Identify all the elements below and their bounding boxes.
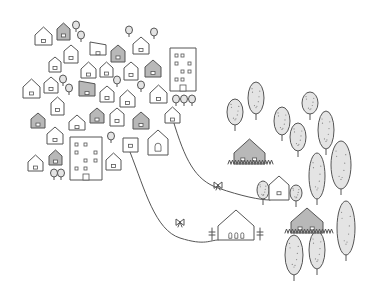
town-house [49,57,61,72]
window-icon [129,73,133,76]
small-tree-icon [114,76,121,87]
apartment-building [70,137,102,180]
town-house [100,86,114,102]
tree-icon [331,141,351,195]
tree-icon [309,153,325,205]
window-icon [171,118,175,121]
path-line [130,152,218,242]
window-icon [139,124,143,127]
window-icon [129,144,133,147]
town-house [51,97,64,115]
countryside-trees [227,82,355,281]
small-tree-icon [189,95,196,106]
town-house [100,62,113,77]
ribbon-bow-icon [176,219,184,227]
town-house [23,79,40,98]
small-tree-icon [181,95,188,106]
tree-icon [248,82,264,120]
window-icon [96,52,100,55]
town-house [49,150,62,165]
town-house [148,130,168,155]
fence-post-icon [209,228,215,240]
apartment-building [170,48,196,91]
window-icon [36,123,40,126]
window-icon [112,165,116,168]
town-house [106,153,121,170]
small-tree-icon [126,26,133,37]
window-icon [85,92,89,95]
tree-icon [309,231,325,275]
tree-icon [257,181,269,205]
small-tree-icon [60,75,67,86]
small-tree-icon [58,169,65,180]
window-icon [49,88,53,91]
town-house [47,127,63,144]
tree-icon [318,111,334,155]
window-icon [34,166,38,169]
window-icon [151,72,155,75]
window-icon [229,233,232,238]
door-icon [83,174,89,180]
country-house [218,210,254,240]
town-house [110,108,124,126]
town-house [28,155,43,171]
fence-post-icon [257,228,263,240]
window-icon [139,49,143,52]
window-icon [62,34,66,37]
window-icon [53,139,57,142]
tree-icon [290,123,306,157]
window-icon [115,119,119,122]
window-icon [116,56,120,59]
town-house [165,107,180,123]
small-tree-icon [66,84,73,95]
small-tree-icon [173,95,180,106]
tree-icon [274,107,290,141]
window-icon [75,126,79,129]
window-icon [87,73,91,76]
tree-icon [285,235,303,281]
town-house [69,115,85,130]
small-tree-icon [78,31,85,42]
town-house [90,108,104,123]
tree-icon [337,201,355,261]
window-icon [54,160,58,163]
tree-icon [227,99,243,131]
window-icon [56,108,60,111]
town-house [133,37,149,54]
town-house [133,112,149,129]
window-icon [105,97,109,100]
town-house [145,60,161,77]
window-icon [126,102,130,105]
door-icon [180,85,186,91]
town-house [79,81,95,96]
window-icon [241,233,244,238]
window-icon [69,56,73,59]
tree-icon [290,185,302,207]
town-house [150,85,167,103]
town-house [44,77,58,93]
town-house [35,27,52,45]
town-house [81,62,96,78]
small-tree-icon [151,28,158,39]
town-house [31,113,45,128]
country-house [285,208,333,233]
window-icon [105,72,109,75]
window-icon [42,40,46,43]
tree-icon [302,92,318,120]
window-icon [157,98,161,101]
window-icon [235,233,238,238]
small-tree-icon [51,169,58,180]
town-house [90,42,106,55]
country-house [228,139,273,164]
country-house [269,176,289,200]
town-house [123,138,138,152]
town-house [120,90,135,107]
small-tree-icon [108,132,115,143]
town-house [124,62,138,80]
window-icon [277,192,281,195]
small-tree-icon [73,21,80,32]
village-illustration [0,0,377,300]
small-tree-icon [138,81,145,92]
window-icon [53,67,57,70]
window-icon [155,143,161,151]
